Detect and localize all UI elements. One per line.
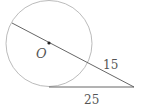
center-point bbox=[47, 41, 50, 44]
center-label: O bbox=[36, 46, 47, 61]
secant-line bbox=[12, 23, 134, 87]
secant-external-label: 15 bbox=[103, 58, 118, 72]
tangent-label: 25 bbox=[84, 93, 99, 107]
geometry-diagram: O 15 25 bbox=[0, 0, 141, 107]
